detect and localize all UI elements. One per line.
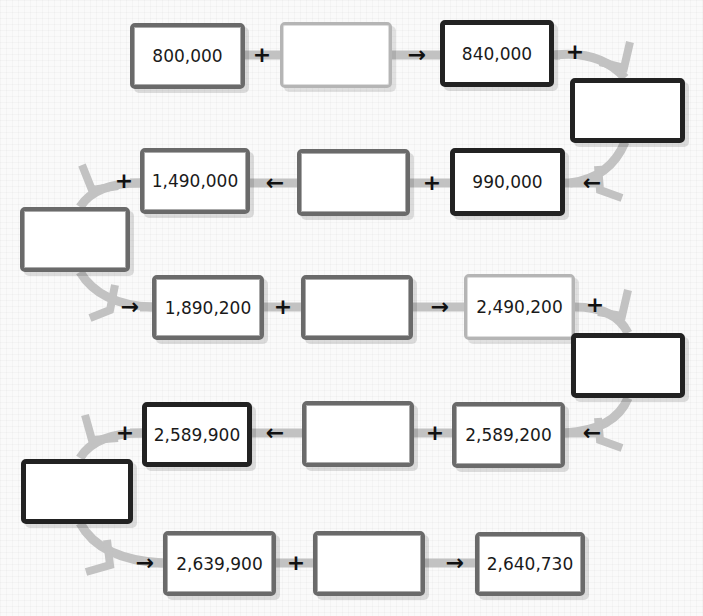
blank-box[interactable] (313, 531, 425, 596)
blank-box[interactable] (301, 275, 413, 340)
arrow-left-icon: ← (583, 172, 601, 194)
value-box: 2,589,900 (142, 402, 252, 467)
value-box: 800,000 (130, 23, 245, 89)
blank-box[interactable] (571, 333, 685, 398)
arrow-right-icon: → (408, 44, 426, 66)
value-box: 840,000 (440, 20, 554, 87)
arrow-right-icon: → (136, 552, 154, 574)
value-box: 2,490,200 (464, 274, 575, 340)
plus-icon: + (586, 294, 604, 316)
arrow-left-icon: ← (266, 422, 284, 444)
value-box: 990,000 (450, 148, 565, 216)
value-box: 1,490,000 (140, 148, 250, 214)
plus-icon: + (426, 422, 444, 444)
arrow-right-icon: → (431, 296, 449, 318)
plus-icon: + (423, 172, 441, 194)
arrow-right-icon: → (121, 296, 139, 318)
blank-box[interactable] (570, 78, 685, 143)
blank-box[interactable] (21, 459, 133, 524)
plus-icon: + (116, 422, 134, 444)
value-box: 2,589,200 (452, 402, 565, 468)
plus-icon: + (287, 552, 305, 574)
arrow-right-icon: → (446, 552, 464, 574)
blank-box[interactable] (20, 207, 130, 272)
blank-box[interactable] (280, 22, 392, 88)
arrow-left-icon: ← (583, 422, 601, 444)
value-box: 2,640,730 (475, 532, 585, 596)
blank-box[interactable] (302, 401, 414, 467)
plus-icon: + (253, 44, 271, 66)
plus-icon: + (115, 170, 133, 192)
plus-icon: + (566, 41, 584, 63)
value-box: 2,639,900 (163, 531, 276, 596)
value-box: 1,890,200 (152, 275, 264, 340)
plus-icon: + (274, 296, 292, 318)
blank-box[interactable] (297, 149, 410, 216)
arrow-left-icon: ← (266, 172, 284, 194)
